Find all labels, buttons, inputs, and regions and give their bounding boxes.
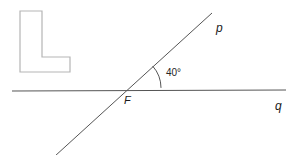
geometry-figure (0, 0, 295, 155)
vertex-label-f: F (124, 95, 131, 106)
line-label-p: p (216, 22, 223, 34)
diagram-canvas: p q F 40° (0, 0, 295, 155)
line-q (12, 90, 286, 91)
angle-measure-label: 40° (166, 68, 181, 78)
line-p (55, 13, 212, 155)
line-label-q: q (275, 100, 282, 112)
l-shape-logo (20, 11, 70, 72)
angle-arc (153, 66, 161, 88)
